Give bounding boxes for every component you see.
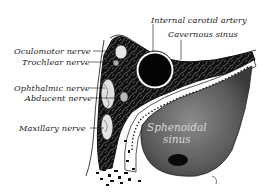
label-cavernous-sinus: Cavernous sinus	[168, 30, 238, 38]
ophthalmic-nerve	[101, 79, 115, 109]
label-internal-carotid-artery: Internal carotid artery	[151, 16, 247, 24]
trochlear-nerve	[113, 60, 119, 66]
label-sphenoidal-sinus-line2: sinus	[163, 134, 191, 145]
label-maxillary-nerve: Maxillary nerve	[19, 124, 86, 132]
abducent-nerve	[120, 92, 128, 102]
anatomy-diagram: Internal carotid artery Cavernous sinus …	[0, 0, 265, 196]
label-oculomotor-nerve: Oculomotor nerve	[14, 47, 91, 55]
label-trochlear-nerve: Trochlear nerve	[22, 58, 90, 66]
label-sphenoidal-sinus-line1: Sphenoidal	[147, 122, 207, 133]
label-abducent-nerve: Abducent nerve	[25, 94, 92, 102]
oculomotor-nerve	[115, 45, 127, 59]
label-ophthalmic-nerve: Ophthalmic nerve	[14, 84, 90, 92]
